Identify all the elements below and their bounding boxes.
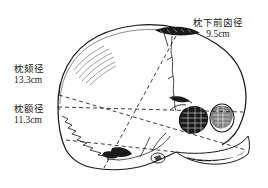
suboccipitobregmatic-line bbox=[104, 36, 176, 168]
label-occipitofrontal: 枕额径 11.3cm bbox=[14, 104, 44, 125]
label-occipitomental: 枕颏径 13.3cm bbox=[14, 64, 44, 85]
leader-occipitomental bbox=[59, 84, 60, 95]
label-occipitofrontal-value: 11.3cm bbox=[14, 115, 44, 126]
skull-outline bbox=[58, 25, 246, 170]
diameter-lines bbox=[58, 36, 246, 168]
label-suboccipitobregmatic-name: 枕下前囟径 bbox=[182, 18, 254, 29]
eye-socket-icon bbox=[210, 104, 234, 132]
occipital-notch-icon bbox=[102, 147, 132, 158]
vault-hatching-icon bbox=[74, 46, 116, 85]
label-suboccipitobregmatic: 枕下前囟径 9.5cm bbox=[182, 18, 254, 39]
temporal-shadow-icon bbox=[170, 96, 190, 102]
ear-icon bbox=[179, 105, 208, 135]
label-occipitofrontal-name: 枕额径 bbox=[14, 104, 44, 115]
label-suboccipitobregmatic-value: 9.5cm bbox=[182, 29, 254, 40]
facial-bones bbox=[176, 136, 250, 164]
label-occipitomental-value: 13.3cm bbox=[14, 75, 44, 86]
label-occipitomental-name: 枕颏径 bbox=[14, 64, 44, 75]
